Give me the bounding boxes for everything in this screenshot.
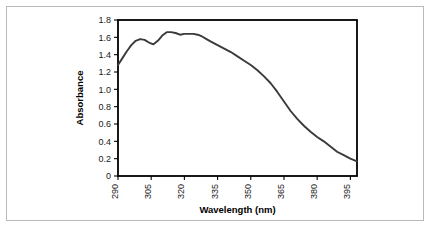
x-axis-title: Wavelength (nm): [199, 204, 275, 215]
chart-root: 00.20.40.60.81.01.21.41.61.8290305320335…: [0, 0, 438, 235]
y-tick-label: 0: [106, 171, 111, 181]
data-series-line: [118, 32, 357, 161]
x-tick-label: 395: [342, 184, 352, 199]
x-tick-label: 290: [110, 184, 120, 199]
y-tick-label: 1.2: [98, 67, 111, 77]
y-tick-label: 0.2: [98, 154, 111, 164]
y-tick-label: 0.4: [98, 137, 111, 147]
x-tick-label: 320: [176, 184, 186, 199]
x-tick-label: 380: [309, 184, 319, 199]
y-tick-label: 1.0: [98, 85, 111, 95]
y-tick-label: 1.6: [98, 33, 111, 43]
absorbance-spectrum-chart: 00.20.40.60.81.01.21.41.61.8290305320335…: [0, 0, 438, 235]
y-tick-label: 0.6: [98, 119, 111, 129]
y-axis-title: Absorbance: [74, 71, 85, 126]
x-tick-label: 305: [143, 184, 153, 199]
y-tick-label: 1.8: [98, 15, 111, 25]
x-tick-label: 350: [243, 184, 253, 199]
x-tick-label: 335: [210, 184, 220, 199]
x-tick-label: 365: [276, 184, 286, 199]
y-tick-label: 0.8: [98, 102, 111, 112]
y-tick-label: 1.4: [98, 50, 111, 60]
